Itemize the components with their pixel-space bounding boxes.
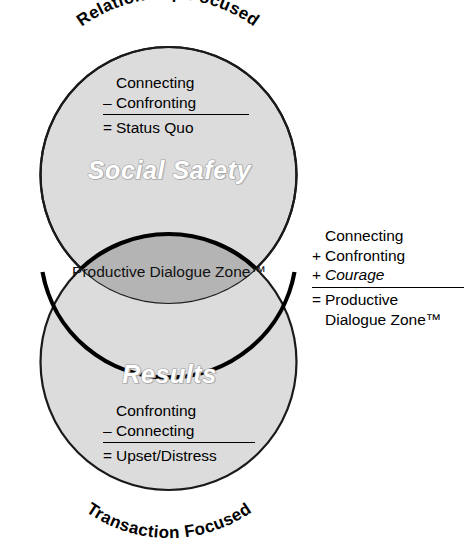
upper-zone-label: Social Safety	[88, 156, 252, 184]
equation-term: Confronting	[325, 246, 405, 266]
equation-result-row: = Upset/Distress	[103, 446, 255, 466]
arc-label-bottom: Transaction Focused	[83, 499, 254, 542]
equation-result-row-continued: Dialogue Zone™	[312, 310, 464, 330]
equation-equals-sign: =	[103, 118, 116, 138]
equation-row: Confronting	[103, 401, 255, 421]
arc-label-top-path: Relationship Focused	[73, 0, 263, 30]
equation-row: – Connecting	[103, 421, 255, 441]
equation-divider-rule	[103, 442, 255, 443]
equation-row: Connecting	[103, 73, 249, 93]
equation-term: Connecting	[116, 421, 194, 441]
equation-row: Connecting	[312, 226, 464, 246]
equation-operator: –	[103, 421, 116, 441]
equation-row: + Confronting	[312, 246, 464, 266]
equation-row: – Confronting	[103, 93, 249, 113]
equation-result-line2: Dialogue Zone™	[325, 310, 441, 330]
equation-result: Status Quo	[116, 118, 194, 138]
equation-operator: +	[312, 246, 325, 266]
lower-zone-label: Results	[122, 360, 217, 388]
equation-equals-sign: =	[312, 290, 325, 310]
productive-dialogue-equation: Connecting + Confronting + Courage = Pro…	[312, 226, 464, 329]
equation-term: Connecting	[325, 226, 403, 246]
equation-result-row: = Status Quo	[103, 118, 249, 138]
arc-label-top: Relationship Focused	[73, 0, 263, 30]
intersection-label: Productive Dialogue Zone™	[72, 263, 266, 280]
equation-row: + Courage	[312, 265, 464, 285]
equation-result-line1: Productive	[325, 290, 398, 310]
equation-operator: +	[312, 265, 325, 285]
results-equation: Confronting – Connecting = Upset/Distres…	[103, 401, 255, 465]
equation-operator: –	[103, 93, 116, 113]
equation-term-courage: Courage	[325, 265, 384, 285]
arc-label-bottom-path: Transaction Focused	[83, 499, 254, 542]
equation-term: Connecting	[116, 73, 194, 93]
equation-term: Confronting	[116, 93, 196, 113]
equation-equals-sign: =	[103, 446, 116, 466]
equation-result-row: = Productive	[312, 290, 464, 310]
equation-result: Upset/Distress	[116, 446, 217, 466]
equation-term: Confronting	[116, 401, 196, 421]
equation-divider-rule	[312, 287, 464, 288]
venn-diagram: Relationship Focused Transaction Focused…	[0, 0, 471, 545]
equation-divider-rule	[103, 114, 249, 115]
social-safety-equation: Connecting – Confronting = Status Quo	[103, 73, 249, 137]
